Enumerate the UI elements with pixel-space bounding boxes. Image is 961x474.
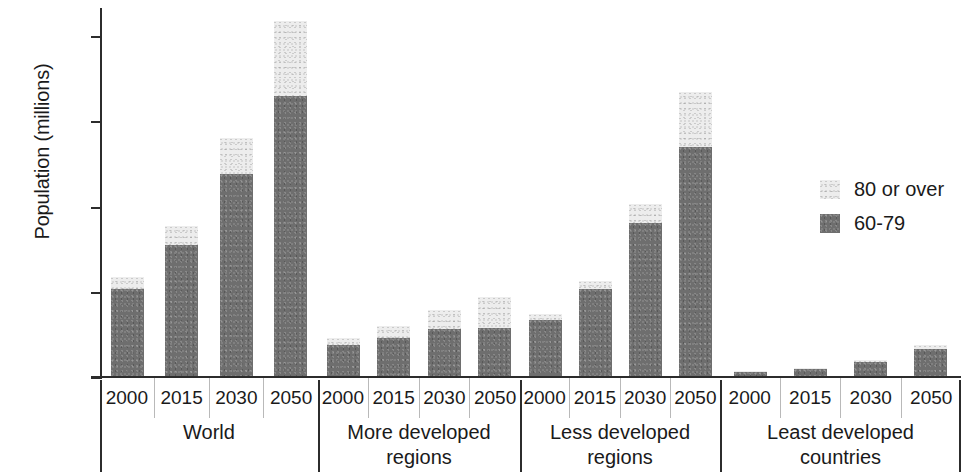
bar-segment-60-79 <box>165 245 198 376</box>
x-axis-group: 2000201520302050More developedregions <box>318 378 520 474</box>
x-axis-year-label: 2030 <box>210 378 265 418</box>
bar <box>529 314 562 376</box>
x-axis-label-table: 2000201520302050World2000201520302050Mor… <box>100 378 961 474</box>
bar-segment-80-or-over <box>327 338 360 345</box>
legend-label-80-or-over: 80 or over <box>854 178 944 201</box>
bar-segment-60-79 <box>794 369 827 376</box>
x-axis-year-label: 2050 <box>902 378 961 418</box>
x-axis-year-row: 2000201520302050 <box>318 378 520 418</box>
x-axis-group: 2000201520302050Less developedregions <box>520 378 720 474</box>
bar <box>377 326 410 376</box>
y-axis-tick-2000 <box>91 36 102 38</box>
x-axis-year-label: 2050 <box>671 378 720 418</box>
bar <box>220 138 253 376</box>
population-ageing-stacked-bar-chart: Population (millions) 05001.0001.5002.00… <box>0 0 961 474</box>
bar-segment-60-79 <box>734 372 767 376</box>
y-axis-tick-1500 <box>91 121 102 123</box>
x-axis-year-label: 2030 <box>841 378 902 418</box>
legend-item-80-or-over: 80 or over <box>820 172 944 206</box>
bar-segment-80-or-over <box>478 297 511 329</box>
bar <box>579 281 612 376</box>
bar-segment-80-or-over <box>579 281 612 289</box>
x-axis-group-label-line1: More developed <box>318 420 520 445</box>
bar-segment-80-or-over <box>111 277 144 289</box>
x-axis-group-label: Less developedregions <box>520 420 720 470</box>
legend-swatch-80-or-over <box>820 180 840 199</box>
x-axis-group-label-line1: World <box>100 420 318 445</box>
x-axis-year-label: 2015 <box>570 378 620 418</box>
bar <box>428 310 461 376</box>
bar <box>679 92 712 376</box>
bar <box>274 21 307 376</box>
bar <box>111 277 144 376</box>
bar-segment-80-or-over <box>679 92 712 147</box>
bar-segment-60-79 <box>377 338 410 376</box>
x-axis-year-row: 2000201520302050 <box>520 378 720 418</box>
x-axis-group-label-line1: Less developed <box>520 420 720 445</box>
x-axis-year-label: 2030 <box>420 378 471 418</box>
bar-segment-80-or-over <box>428 310 461 328</box>
y-axis-tick-1000 <box>91 207 102 209</box>
bar <box>629 204 662 376</box>
bar-segment-60-79 <box>274 96 307 376</box>
bar-segment-60-79 <box>478 328 511 376</box>
bar-segment-80-or-over <box>274 21 307 96</box>
x-axis-year-label: 2000 <box>720 378 781 418</box>
bar-segment-60-79 <box>428 329 461 376</box>
bar-segment-60-79 <box>914 349 947 376</box>
bar-segment-80-or-over <box>165 226 198 245</box>
chart-legend: 80 or over 60-79 <box>820 172 944 240</box>
bar-segment-60-79 <box>220 174 253 376</box>
x-axis-group-label-line1: Least developed <box>720 420 961 445</box>
x-axis-year-label: 2015 <box>155 378 210 418</box>
x-axis-year-label: 2015 <box>369 378 420 418</box>
legend-item-60-79: 60-79 <box>820 206 944 240</box>
x-axis-group-label-line2: countries <box>720 445 961 470</box>
bar <box>734 371 767 376</box>
x-axis-group-label: World <box>100 420 318 445</box>
bar-segment-60-79 <box>579 289 612 376</box>
bar-segment-60-79 <box>529 320 562 376</box>
y-axis-tick-500 <box>91 292 102 294</box>
x-axis-year-row: 2000201520302050 <box>720 378 961 418</box>
y-axis-line <box>100 8 102 378</box>
x-axis-group-label: More developedregions <box>318 420 520 470</box>
x-axis-year-row: 2000201520302050 <box>100 378 318 418</box>
y-axis-title: Population (millions) <box>31 0 54 312</box>
bar-segment-60-79 <box>629 223 662 376</box>
x-axis-group-divider <box>520 380 522 472</box>
x-axis-group-divider <box>720 380 722 472</box>
x-axis-group-label-line2: regions <box>318 445 520 470</box>
bar <box>794 368 827 376</box>
legend-swatch-60-79 <box>820 214 840 233</box>
bar-segment-80-or-over <box>377 326 410 338</box>
x-axis-group-divider <box>318 380 320 472</box>
x-axis-group: 2000201520302050Least developedcountries <box>720 378 961 474</box>
bar <box>914 345 947 376</box>
x-axis-group-label: Least developedcountries <box>720 420 961 470</box>
x-axis-year-label: 2030 <box>621 378 671 418</box>
bar <box>165 226 198 376</box>
bar <box>478 297 511 376</box>
bar <box>327 338 360 376</box>
bar-segment-80-or-over <box>220 138 253 174</box>
x-axis-year-label: 2000 <box>520 378 570 418</box>
x-axis-year-label: 2000 <box>318 378 369 418</box>
bar-segment-60-79 <box>679 147 712 376</box>
bar-segment-80-or-over <box>629 204 662 223</box>
bar <box>854 360 887 376</box>
x-axis-year-label: 2000 <box>100 378 155 418</box>
bar-segment-60-79 <box>854 362 887 376</box>
bar-segment-60-79 <box>327 345 360 376</box>
x-axis-group: 2000201520302050World <box>100 378 318 474</box>
bar-segment-60-79 <box>111 289 144 376</box>
x-axis-group-divider <box>100 380 102 472</box>
x-axis-year-label: 2050 <box>264 378 318 418</box>
x-axis-group-label-line2: regions <box>520 445 720 470</box>
x-axis-year-label: 2015 <box>781 378 842 418</box>
legend-label-60-79: 60-79 <box>854 212 905 235</box>
x-axis-year-label: 2050 <box>470 378 520 418</box>
